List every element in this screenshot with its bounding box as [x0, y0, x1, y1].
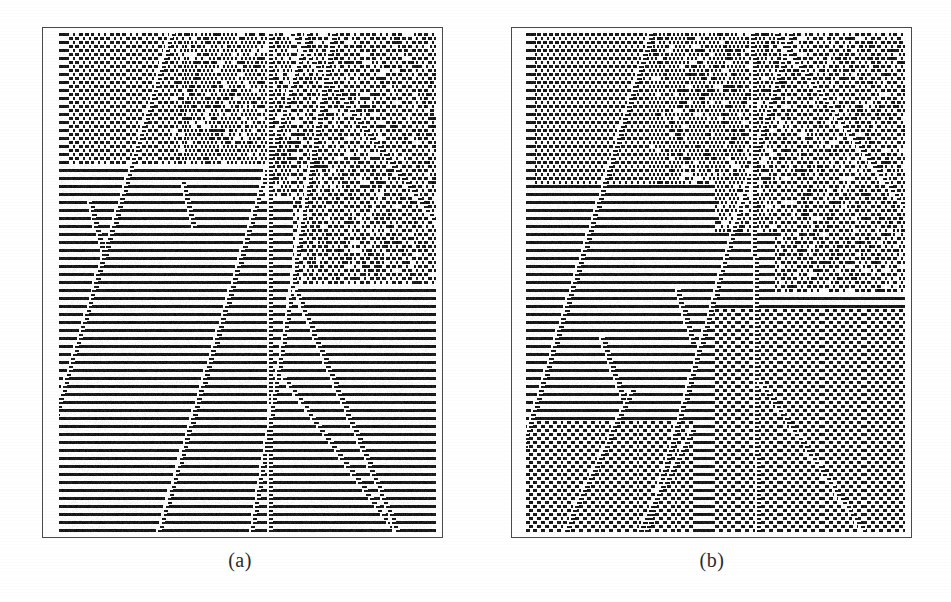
panel-b-spacetime-diagram: [526, 33, 905, 533]
panel-b-caption: (b): [652, 549, 772, 571]
panel-b-inner: [512, 28, 911, 537]
panel-a-spacetime-diagram: [59, 33, 436, 533]
panel-a-caption: (a): [180, 549, 300, 571]
panel-b-frame: [511, 27, 912, 538]
figure-root: (a) (b): [0, 0, 951, 602]
panel-a-frame: [42, 27, 443, 538]
panel-a-inner: [43, 28, 442, 537]
